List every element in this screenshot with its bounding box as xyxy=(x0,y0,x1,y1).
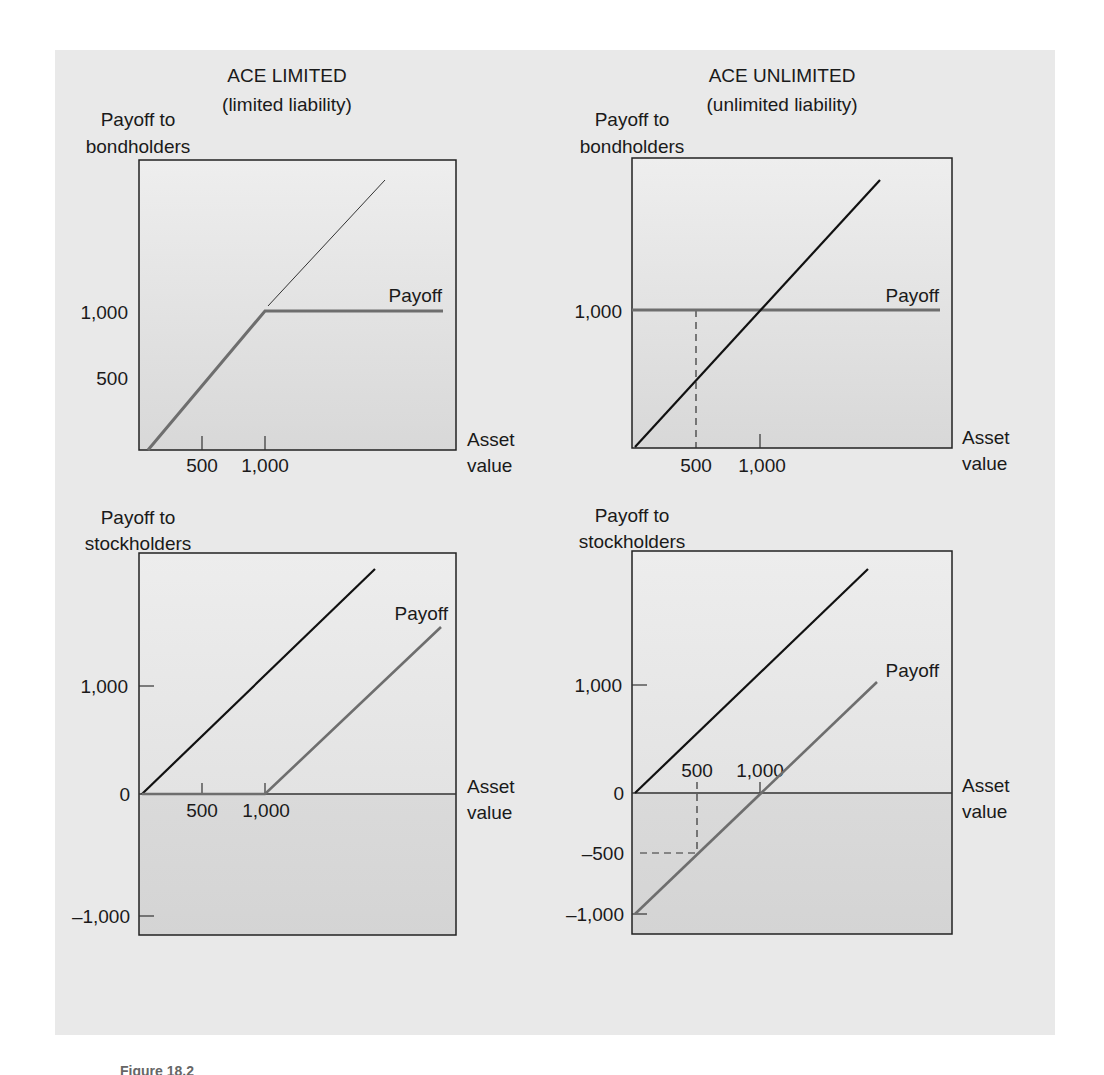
y-axis-label: stockholders xyxy=(579,531,686,552)
y-tick-0: 0 xyxy=(613,783,624,804)
x-tick-1000: 1,000 xyxy=(242,800,290,821)
y-tick-500: 500 xyxy=(96,368,128,389)
svg-text:(unlimited liability): (unlimited liability) xyxy=(707,94,858,115)
y-tick-1000: 1,000 xyxy=(80,676,128,697)
x-tick-500: 500 xyxy=(186,455,218,476)
x-axis-label: Asset xyxy=(962,427,1010,448)
svg-text:ACE UNLIMITED: ACE UNLIMITED xyxy=(709,65,856,86)
x-tick-500: 500 xyxy=(186,800,218,821)
chart-limited-stockholders: Payoff to stockholders 1,000 0 –1,000 50… xyxy=(72,507,515,935)
x-axis-label: value xyxy=(467,455,512,476)
column-title-unlimited: ACE UNLIMITED (unlimited liability) xyxy=(707,65,858,115)
y-tick-1000: 1,000 xyxy=(574,301,622,322)
y-tick-neg500: –500 xyxy=(582,843,624,864)
payoff-figure: ACE LIMITED (limited liability) ACE UNLI… xyxy=(0,0,1104,1075)
y-axis-label: bondholders xyxy=(86,136,191,157)
y-tick-neg1000: –1,000 xyxy=(72,906,130,927)
y-axis-label: Payoff to xyxy=(595,109,670,130)
x-axis-label: value xyxy=(962,453,1007,474)
svg-text:(limited liability): (limited liability) xyxy=(222,94,352,115)
x-tick-500: 500 xyxy=(680,455,712,476)
column-title-limited: ACE LIMITED (limited liability) xyxy=(222,65,352,115)
y-tick-1000: 1,000 xyxy=(80,302,128,323)
x-tick-1000: 1,000 xyxy=(241,455,289,476)
x-axis-label: value xyxy=(467,802,512,823)
plot-area xyxy=(632,551,952,934)
x-axis-label: Asset xyxy=(962,775,1010,796)
payoff-label: Payoff xyxy=(885,660,939,681)
payoff-label: Payoff xyxy=(885,285,939,306)
x-tick-1000: 1,000 xyxy=(738,455,786,476)
payoff-label: Payoff xyxy=(388,285,442,306)
x-axis-label: Asset xyxy=(467,776,515,797)
chart-unlimited-stockholders: Payoff to stockholders 1,000 0 –500 –1,0… xyxy=(566,505,1010,934)
y-axis-label: Payoff to xyxy=(101,109,176,130)
y-tick-neg1000: –1,000 xyxy=(566,904,624,925)
svg-text:ACE LIMITED: ACE LIMITED xyxy=(227,65,346,86)
y-axis-label: Payoff to xyxy=(101,507,176,528)
y-tick-0: 0 xyxy=(119,784,130,805)
chart-limited-bondholders: Payoff to bondholders 500 1,000 1,000 50… xyxy=(80,109,515,476)
x-axis-label: Asset xyxy=(467,429,515,450)
x-tick-500: 500 xyxy=(681,760,713,781)
y-axis-label: Payoff to xyxy=(595,505,670,526)
y-tick-1000: 1,000 xyxy=(574,675,622,696)
x-axis-label: value xyxy=(962,801,1007,822)
y-axis-label: bondholders xyxy=(580,136,685,157)
y-axis-label: stockholders xyxy=(85,533,192,554)
chart-unlimited-bondholders: Payoff to bondholders 500 1,000 1,000 Pa… xyxy=(574,109,1010,476)
figure-caption: Figure 18.2 xyxy=(120,1060,194,1075)
payoff-label: Payoff xyxy=(394,603,448,624)
